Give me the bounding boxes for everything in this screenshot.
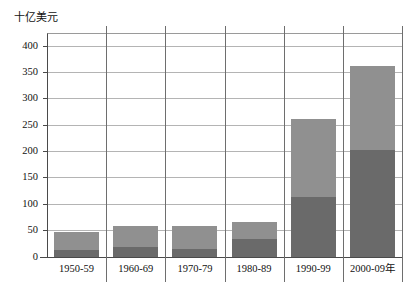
bar-segment-upper xyxy=(113,226,158,247)
x-axis-labels: 1950-591960-691970-791980-891990-992000-… xyxy=(40,258,403,282)
x-tick-label: 1960-69 xyxy=(106,263,165,275)
bar xyxy=(113,226,158,257)
x-tick-label: 1950-59 xyxy=(47,263,106,275)
bar-segment-lower xyxy=(350,150,395,257)
x-tick-label: 2000-09年 xyxy=(343,263,402,275)
bar-segment-upper xyxy=(172,226,217,248)
bar xyxy=(172,226,217,257)
bar-segment-lower xyxy=(113,247,158,256)
bar-chart: 十亿美元 050100150200250300350400 1950-59196… xyxy=(0,0,411,293)
bar-segment-lower xyxy=(232,239,277,257)
x-tick-label: 1970-79 xyxy=(165,263,224,275)
bar-segment-lower xyxy=(54,250,99,257)
bar-segment-lower xyxy=(172,249,217,257)
bars-layer xyxy=(0,0,411,257)
x-tick-label: 1990-99 xyxy=(284,263,343,275)
bar xyxy=(54,232,99,257)
x-tick-label: 1980-89 xyxy=(225,263,284,275)
bar-segment-lower xyxy=(291,197,336,257)
bar-segment-upper xyxy=(232,222,277,239)
bar-segment-upper xyxy=(350,66,395,150)
bar xyxy=(291,119,336,257)
bar-segment-upper xyxy=(54,232,99,250)
bar-segment-upper xyxy=(291,119,336,198)
bar xyxy=(350,66,395,257)
bar xyxy=(232,222,277,257)
